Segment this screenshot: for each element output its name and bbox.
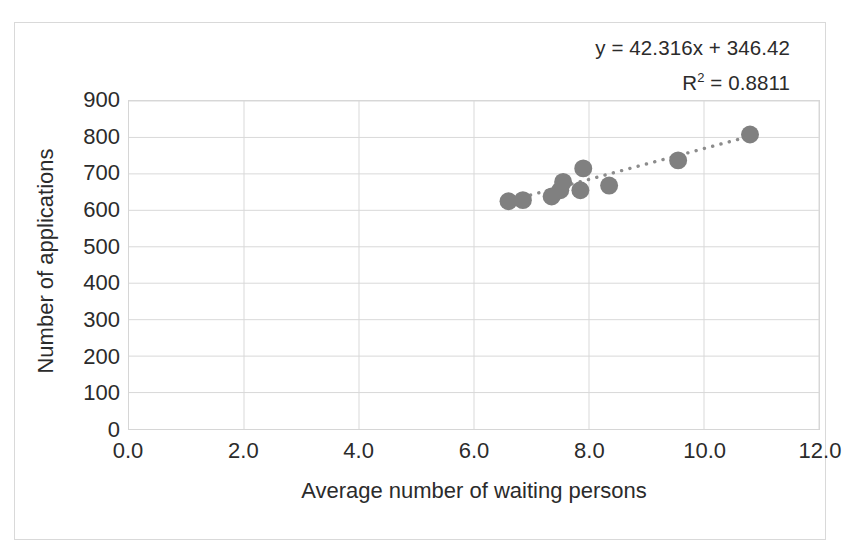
trendline-equation-text: y = 42.316x + 346.42: [430, 33, 790, 63]
x-axis-tick-label: 4.0: [314, 438, 404, 464]
y-axis-tick-label: 800: [58, 124, 120, 150]
x-axis-tick-label: 6.0: [429, 438, 519, 464]
plot-area: [128, 100, 820, 430]
y-axis-tick-label: 700: [58, 160, 120, 186]
x-axis-tick-label: 0.0: [83, 438, 173, 464]
x-axis-tick-label: 2.0: [198, 438, 288, 464]
x-axis-tick-label: 12.0: [775, 438, 842, 464]
x-axis-tick-labels: 0.02.04.06.08.010.012.0: [128, 438, 820, 472]
y-axis-tick-labels: 0100200300400500600700800900: [56, 100, 120, 430]
x-axis-tick-label: 10.0: [660, 438, 750, 464]
y-axis-tick-label: 100: [58, 380, 120, 406]
trendline-annotation: y = 42.316x + 346.42 R2 = 0.8811: [430, 33, 790, 98]
y-axis-tick-label: 900: [58, 87, 120, 113]
data-point: [554, 173, 572, 191]
y-axis-tick-label: 400: [58, 270, 120, 296]
r-squared-superscript: 2: [697, 70, 704, 85]
data-points-layer: [129, 101, 819, 429]
data-point: [741, 126, 759, 144]
data-point: [514, 191, 532, 209]
y-axis-tick-label: 200: [58, 344, 120, 370]
data-point: [669, 151, 687, 169]
r-squared-text: R2 = 0.8811: [430, 63, 790, 98]
scatter-chart-figure: y = 42.316x + 346.42 R2 = 0.8811 0100200…: [0, 0, 842, 555]
y-axis-tick-label: 500: [58, 234, 120, 260]
y-axis-title: Number of applications: [33, 111, 59, 411]
data-point: [571, 181, 589, 199]
x-axis-title: Average number of waiting persons: [128, 478, 820, 504]
x-axis-tick-label: 8.0: [544, 438, 634, 464]
r-squared-value-text: = 0.8811: [705, 71, 790, 94]
data-point: [600, 177, 618, 195]
y-axis-tick-label: 600: [58, 197, 120, 223]
y-axis-tick-label: 300: [58, 307, 120, 333]
data-point: [574, 159, 592, 177]
